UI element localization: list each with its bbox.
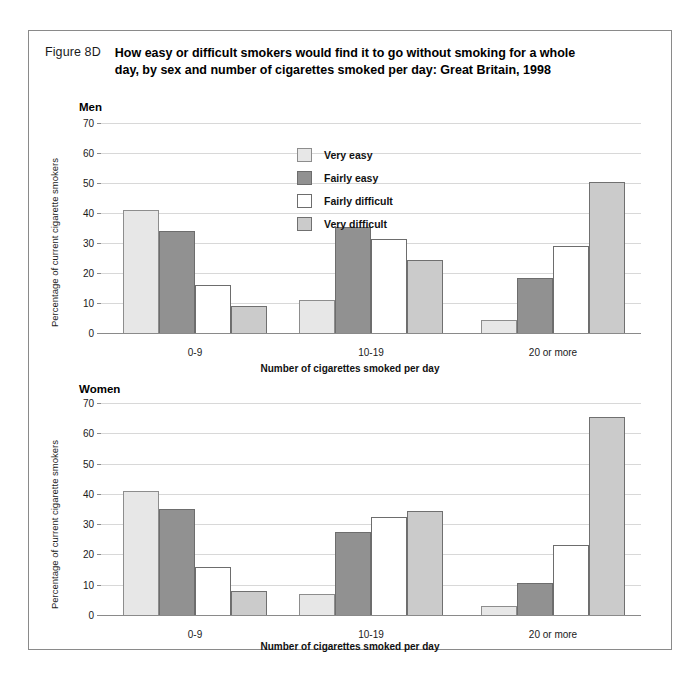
y-tick-mark	[97, 433, 101, 434]
x-axis-line	[101, 615, 641, 616]
y-tick-label: 70	[83, 118, 94, 129]
bar	[159, 231, 195, 333]
bar	[299, 594, 335, 615]
legend-item: Fairly difficult	[297, 189, 393, 212]
bar	[517, 278, 553, 334]
bar-group	[481, 403, 625, 615]
figure-title-row: Figure 8D How easy or difficult smokers …	[45, 45, 655, 79]
legend-swatch-fairly-easy	[297, 171, 312, 185]
bar	[195, 285, 231, 333]
legend-label: Very difficult	[324, 218, 387, 230]
y-tick-mark	[97, 615, 101, 616]
bar	[371, 239, 407, 334]
bar	[299, 300, 335, 333]
x-axis-line	[101, 333, 641, 334]
legend-swatch-fairly-difficult	[297, 194, 312, 208]
legend-item: Fairly easy	[297, 166, 393, 189]
y-tick-label: 10	[83, 579, 94, 590]
panel-heading-men: Men	[79, 101, 102, 113]
bar	[481, 320, 517, 334]
bar	[481, 606, 517, 615]
y-tick-mark	[97, 333, 101, 334]
legend-label: Fairly difficult	[324, 195, 393, 207]
x-axis-title-women: Number of cigarettes smoked per day	[29, 641, 671, 652]
bar	[589, 417, 625, 615]
panel-heading-women: Women	[79, 383, 120, 395]
y-tick-mark	[97, 554, 101, 555]
bar	[195, 567, 231, 615]
page-title: How easy or difficult smokers would find…	[115, 45, 585, 79]
y-axis-title-men: Percentage of current cigarette smokers	[49, 158, 60, 327]
y-tick-mark	[97, 213, 101, 214]
x-tick-label: 10-19	[358, 629, 384, 640]
y-tick-label: 20	[83, 549, 94, 560]
bar	[553, 545, 589, 615]
bar-group	[123, 123, 267, 333]
bar	[517, 583, 553, 615]
legend-item: Very difficult	[297, 212, 393, 235]
bar	[231, 591, 267, 615]
y-tick-mark	[97, 464, 101, 465]
y-tick-label: 50	[83, 458, 94, 469]
legend-swatch-very-difficult	[297, 217, 312, 231]
y-tick-mark	[97, 243, 101, 244]
legend-swatch-very-easy	[297, 148, 312, 162]
bar	[407, 260, 443, 334]
plot-area-men: 0102030405060700-910-1920 or more Very e…	[101, 123, 641, 333]
y-tick-mark	[97, 153, 101, 154]
y-tick-label: 60	[83, 428, 94, 439]
y-tick-label: 0	[88, 610, 94, 621]
y-axis-title-women: Percentage of current cigarette smokers	[49, 440, 60, 609]
legend-label: Very easy	[324, 149, 372, 161]
y-tick-mark	[97, 183, 101, 184]
figure-frame: Figure 8D How easy or difficult smokers …	[28, 30, 672, 650]
x-tick-label: 0-9	[188, 347, 202, 358]
legend-item: Very easy	[297, 143, 393, 166]
y-tick-mark	[97, 585, 101, 586]
plot-area-women: 0102030405060700-910-1920 or more	[101, 403, 641, 615]
y-tick-mark	[97, 123, 101, 124]
y-tick-mark	[97, 403, 101, 404]
y-tick-mark	[97, 494, 101, 495]
y-tick-label: 40	[83, 488, 94, 499]
bar	[159, 509, 195, 615]
legend-label: Fairly easy	[324, 172, 378, 184]
bar	[589, 182, 625, 334]
y-tick-label: 30	[83, 238, 94, 249]
y-tick-label: 20	[83, 268, 94, 279]
figure-number: Figure 8D	[45, 45, 101, 59]
y-tick-mark	[97, 524, 101, 525]
x-tick-label: 10-19	[358, 347, 384, 358]
bar	[123, 491, 159, 615]
chart-panel-men: Men Percentage of current cigarette smok…	[29, 101, 671, 386]
y-tick-label: 30	[83, 519, 94, 530]
bar	[407, 511, 443, 615]
x-tick-label: 20 or more	[529, 629, 577, 640]
y-tick-mark	[97, 303, 101, 304]
y-tick-label: 40	[83, 208, 94, 219]
chart-panel-women: Women Percentage of current cigarette sm…	[29, 383, 671, 645]
bar	[231, 306, 267, 333]
y-tick-label: 10	[83, 298, 94, 309]
y-tick-label: 50	[83, 178, 94, 189]
bar	[553, 246, 589, 333]
y-tick-label: 70	[83, 398, 94, 409]
bar	[371, 517, 407, 615]
bar-group	[299, 403, 443, 615]
y-tick-label: 60	[83, 148, 94, 159]
x-tick-label: 20 or more	[529, 347, 577, 358]
bar-group	[123, 403, 267, 615]
chart-legend: Very easy Fairly easy Fairly difficult V…	[297, 143, 393, 235]
y-tick-mark	[97, 273, 101, 274]
bar	[123, 210, 159, 333]
bar	[335, 227, 371, 334]
bar	[335, 532, 371, 615]
y-tick-label: 0	[88, 328, 94, 339]
x-axis-title-men: Number of cigarettes smoked per day	[29, 363, 671, 374]
bar-group	[481, 123, 625, 333]
x-tick-label: 0-9	[188, 629, 202, 640]
